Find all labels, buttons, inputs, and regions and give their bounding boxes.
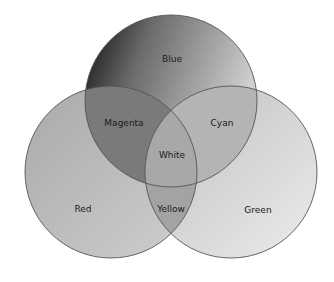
label-magenta: Magenta xyxy=(104,118,143,128)
label-blue: Blue xyxy=(162,54,182,64)
label-yellow: Yellow xyxy=(156,204,185,214)
label-red: Red xyxy=(74,204,91,214)
label-white: White xyxy=(159,150,186,160)
venn-diagram: Blue Magenta Cyan White Red Yellow Green xyxy=(0,0,334,282)
label-green: Green xyxy=(244,205,271,215)
label-cyan: Cyan xyxy=(211,118,234,128)
